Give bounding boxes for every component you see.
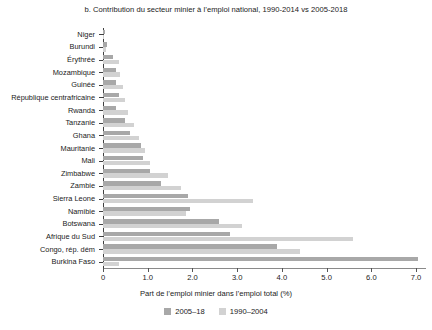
x-axis-tick-label: 1.0 — [133, 273, 163, 282]
bar-chart: b. Contribution du secteur minier à l’em… — [0, 0, 432, 330]
bar-2005-18 — [103, 232, 230, 236]
x-axis-tick — [237, 268, 238, 272]
chart-title: b. Contribution du secteur minier à l’em… — [0, 5, 432, 14]
bar-1990-2004 — [103, 60, 119, 64]
x-axis-tick — [282, 268, 283, 272]
bar-1990-2004 — [103, 136, 139, 140]
bar-2005-18 — [103, 55, 113, 59]
bar-1990-2004 — [103, 262, 119, 266]
x-axis-tick — [148, 268, 149, 272]
y-axis-label: Mauritanie — [60, 144, 95, 153]
x-axis-tick — [103, 268, 104, 272]
y-axis-label: Botswana — [63, 219, 95, 228]
x-axis-tick-label: 3.0 — [222, 273, 252, 282]
y-axis-label: Guinée — [71, 80, 95, 89]
x-axis-line — [103, 268, 426, 269]
legend-item[interactable]: 2005–18 — [164, 307, 205, 316]
bar-1990-2004 — [103, 72, 120, 76]
bar-1990-2004 — [103, 110, 128, 114]
bar-1990-2004 — [103, 148, 145, 152]
bar-1990-2004 — [103, 173, 168, 177]
x-axis-tick-label: 6.0 — [356, 273, 386, 282]
legend-label: 2005–18 — [175, 307, 205, 316]
bar-2005-18 — [103, 106, 116, 110]
legend-item[interactable]: 1990–2004 — [219, 307, 268, 316]
y-axis-label: Mali — [81, 156, 95, 165]
bar-1990-2004 — [103, 249, 300, 253]
x-axis-tick — [416, 268, 417, 272]
x-axis-tick — [192, 268, 193, 272]
bar-2005-18 — [103, 68, 116, 72]
y-axis-label: Mozambique — [53, 68, 95, 77]
bar-2005-18 — [103, 93, 119, 97]
bar-1990-2004 — [103, 237, 353, 241]
legend-swatch-icon — [164, 308, 171, 315]
y-axis-label: Érythrée — [67, 55, 95, 64]
y-axis-label: Niger — [77, 30, 95, 39]
y-axis-label: Ghana — [73, 131, 95, 140]
x-axis-title: Part de l’emploi minier dans l’emploi to… — [0, 289, 432, 298]
bar-2005-18 — [103, 257, 418, 261]
y-axis-label: Burundi — [70, 42, 95, 51]
y-axis-label: République centrafricaine — [11, 93, 95, 102]
bar-2005-18 — [103, 42, 107, 46]
bar-2005-18 — [103, 156, 143, 160]
legend-swatch-icon — [219, 308, 226, 315]
bar-2005-18 — [103, 143, 141, 147]
x-axis-tick-label: 2.0 — [177, 273, 207, 282]
y-axis-label: Sierra Leone — [53, 194, 95, 203]
bar-1990-2004 — [103, 85, 123, 89]
y-axis-label: Zambie — [70, 181, 95, 190]
y-axis-label: Congo, rép. dém — [40, 245, 95, 254]
y-axis-label: Burkina Faso — [51, 257, 95, 266]
bar-2005-18 — [103, 181, 161, 185]
y-axis-label: Afrique du Sud — [46, 232, 95, 241]
x-axis-tick-label: 0 — [88, 273, 118, 282]
x-axis-tick-label: 7.0 — [401, 273, 431, 282]
x-axis-tick-label: 4.0 — [267, 273, 297, 282]
x-axis-tick — [327, 268, 328, 272]
bar-2005-18 — [103, 118, 125, 122]
bar-1990-2004 — [103, 98, 125, 102]
bar-2005-18 — [103, 219, 219, 223]
bar-1990-2004 — [103, 123, 134, 127]
bar-2005-18 — [103, 30, 105, 34]
bar-2005-18 — [103, 169, 150, 173]
x-axis-tick — [371, 268, 372, 272]
y-axis-label: Rwanda — [68, 106, 95, 115]
bar-1990-2004 — [103, 161, 150, 165]
bar-2005-18 — [103, 131, 130, 135]
x-axis-tick-label: 5.0 — [312, 273, 342, 282]
bar-1990-2004 — [103, 199, 253, 203]
bar-1990-2004 — [103, 186, 181, 190]
bar-2005-18 — [103, 80, 116, 84]
y-axis-label: Namibie — [68, 207, 95, 216]
bar-1990-2004 — [103, 224, 242, 228]
bar-1990-2004 — [103, 47, 106, 51]
bar-2005-18 — [103, 207, 190, 211]
y-axis-label: Tanzanie — [65, 118, 95, 127]
bar-1990-2004 — [103, 211, 186, 215]
bar-2005-18 — [103, 244, 277, 248]
bar-1990-2004 — [103, 35, 104, 39]
y-axis-label: Zimbabwe — [61, 169, 95, 178]
chart-legend: 2005–181990–2004 — [0, 307, 432, 316]
legend-label: 1990–2004 — [230, 307, 268, 316]
bar-2005-18 — [103, 194, 188, 198]
